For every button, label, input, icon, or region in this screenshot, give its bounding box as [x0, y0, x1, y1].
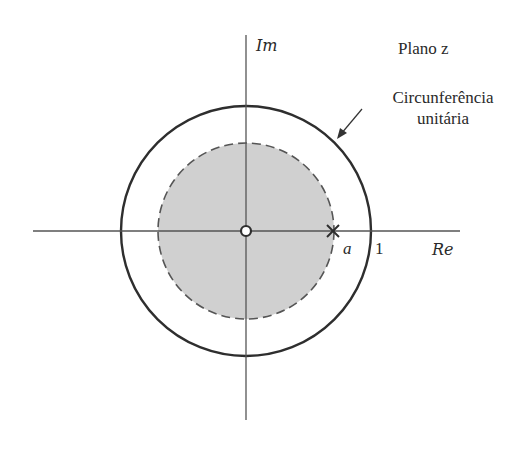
unit-radius-label: 1: [375, 239, 384, 258]
zero-circle-marker: [241, 226, 251, 236]
z-plane-diagram: Im Plano z Circunferência unitária a 1 R…: [0, 0, 507, 450]
pole-label: a: [343, 239, 352, 258]
unit-circle-label-line1: Circunferência: [393, 88, 494, 107]
plane-title: Plano z: [398, 39, 449, 58]
unit-circle-arrow-icon: [337, 109, 362, 139]
unit-circle-label-line2: unitária: [417, 109, 469, 128]
real-axis-label: Re: [431, 240, 454, 259]
imaginary-axis-label: Im: [255, 36, 278, 55]
